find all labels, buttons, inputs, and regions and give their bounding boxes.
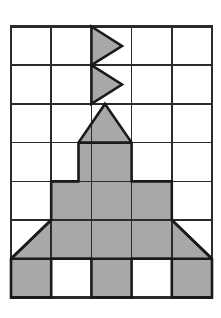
body-wide-band-row6	[51, 220, 172, 259]
leg-bottom-right	[172, 259, 212, 298]
leg-bottom-left	[11, 259, 51, 298]
leg-bottom-middle	[91, 259, 131, 298]
figure-container	[0, 0, 221, 318]
body-upper-square	[79, 143, 132, 182]
body-wide-band-row5	[51, 181, 172, 220]
shaded-grid-figure	[0, 0, 221, 318]
